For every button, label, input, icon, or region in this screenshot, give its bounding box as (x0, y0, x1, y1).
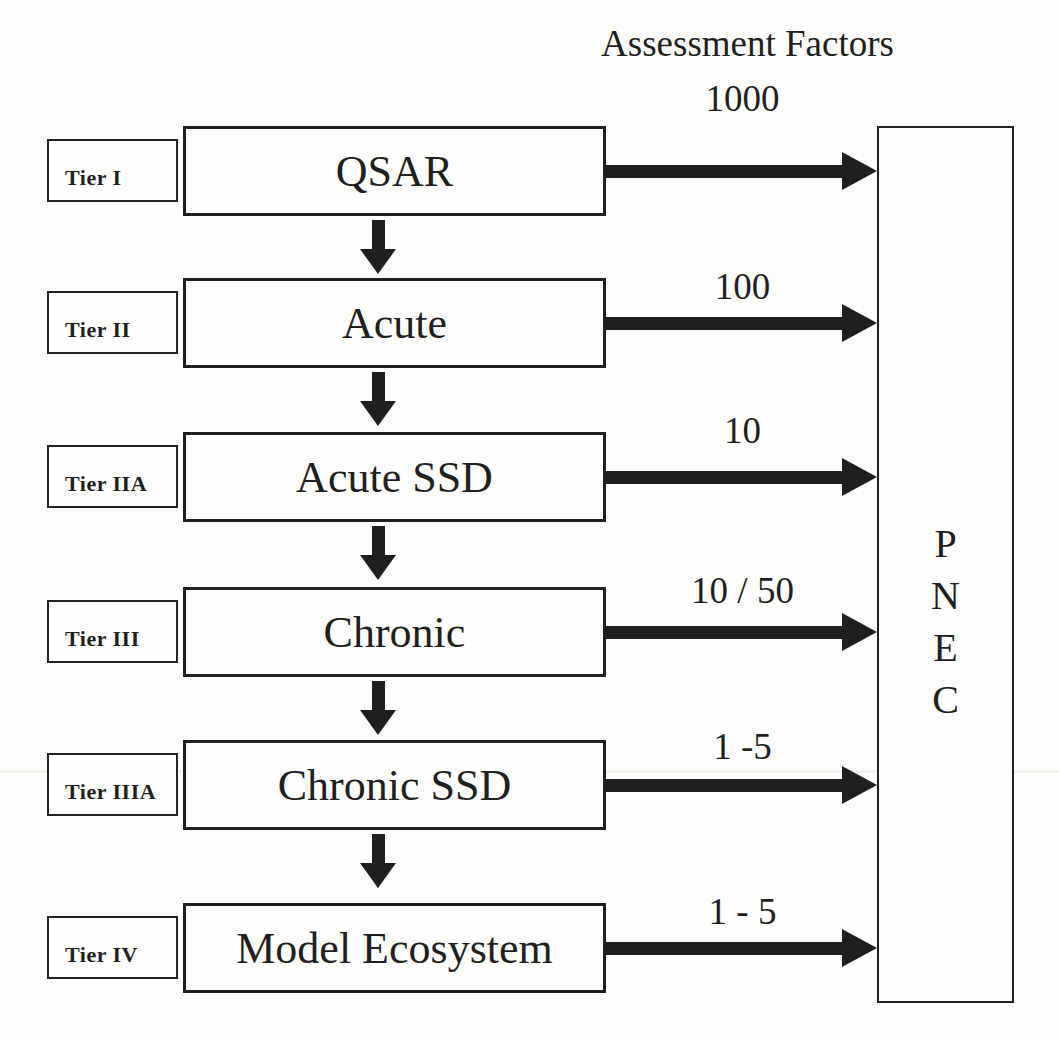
arrow-head (360, 401, 396, 426)
arrow-stem (372, 526, 385, 556)
factor-value: 100 (555, 268, 930, 306)
method-box-label: Chronic SSD (278, 760, 511, 811)
factor-value: 10 / 50 (555, 572, 930, 610)
method-box-qsar: QSAR (183, 126, 606, 216)
tier-badge-label: Tier IIA (65, 471, 147, 497)
factor-value: 1000 (555, 80, 930, 118)
down-arrow-icon (360, 834, 397, 888)
method-box-label: Acute SSD (296, 452, 493, 503)
method-box-chronic: Chronic (183, 587, 606, 677)
arrow-head (360, 863, 396, 888)
arrow-head (360, 710, 396, 735)
arrow-stem (606, 942, 844, 955)
tier-badge-tier-ii: Tier II (47, 291, 178, 354)
arrow-stem (606, 779, 844, 792)
tier-badge-tier-iii: Tier III (47, 600, 178, 663)
method-box-label: QSAR (336, 146, 453, 197)
tier-badge-tier-iia: Tier IIA (47, 445, 178, 508)
tier-badge-tier-iv: Tier IV (47, 916, 178, 979)
arrow-head (842, 458, 877, 496)
tiered-assessment-diagram: Assessment Factors Tier I QSAR 1000 Tier… (0, 0, 1059, 1040)
arrow-stem (606, 317, 844, 330)
tier-badge-label: Tier IIIA (65, 779, 156, 805)
method-box-label: Acute (342, 298, 447, 349)
factor-value: 1 -5 (555, 728, 930, 766)
arrow-head (842, 304, 877, 342)
arrow-stem (606, 626, 844, 639)
right-arrow-icon (606, 766, 877, 804)
method-box-label: Model Ecosystem (236, 923, 553, 974)
arrow-stem (372, 681, 385, 711)
arrow-head (360, 555, 396, 580)
tier-badge-label: Tier III (65, 626, 140, 652)
tier-badge-tier-iiia: Tier IIIA (47, 753, 178, 816)
tier-badge-label: Tier II (65, 317, 131, 343)
arrow-head (842, 613, 877, 651)
right-arrow-icon (606, 613, 877, 651)
down-arrow-icon (360, 220, 397, 274)
arrow-stem (606, 471, 844, 484)
arrow-stem (372, 372, 385, 402)
arrow-head (842, 766, 877, 804)
arrow-stem (606, 165, 844, 178)
right-arrow-icon (606, 152, 877, 190)
arrow-head (842, 152, 877, 190)
pnec-letter: C (877, 674, 1014, 726)
factor-value: 1 - 5 (555, 893, 930, 931)
pnec-letter: P (877, 518, 1014, 570)
method-box-label: Chronic (324, 607, 466, 658)
arrow-stem (372, 834, 385, 864)
tier-badge-tier-i: Tier I (47, 139, 178, 202)
tier-badge-label: Tier IV (65, 942, 138, 968)
arrow-head (360, 249, 396, 274)
pnec-letter: N (877, 570, 1014, 622)
right-arrow-icon (606, 929, 877, 967)
method-box-chronic-ssd: Chronic SSD (183, 740, 606, 830)
right-arrow-icon (606, 458, 877, 496)
method-box-acute: Acute (183, 278, 606, 368)
arrow-stem (372, 220, 385, 250)
pnec-result-label: P N E C (877, 518, 1014, 726)
method-box-acute-ssd: Acute SSD (183, 432, 606, 522)
down-arrow-icon (360, 526, 397, 580)
down-arrow-icon (360, 681, 397, 735)
factor-value: 10 (555, 412, 930, 450)
pnec-letter: E (877, 622, 1014, 674)
down-arrow-icon (360, 372, 397, 426)
right-arrow-icon (606, 304, 877, 342)
tier-badge-label: Tier I (65, 165, 122, 191)
arrow-head (842, 929, 877, 967)
method-box-model-ecosystem: Model Ecosystem (183, 903, 606, 993)
assessment-factors-heading: Assessment Factors (555, 24, 940, 64)
